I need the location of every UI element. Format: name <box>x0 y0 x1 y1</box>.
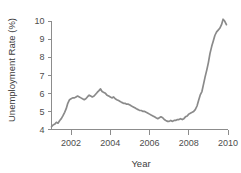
x-axis-title: Year <box>131 158 150 169</box>
y-tick-label: 9 <box>39 34 44 44</box>
y-axis-title: Unemployment Rate (%) <box>6 18 17 122</box>
chart-canvas: 45678910 20022004200620082010 Unemployme… <box>0 0 241 173</box>
series-line-unemployment-rate <box>52 19 227 127</box>
y-axis-ticks: 45678910 <box>34 16 51 134</box>
unemployment-rate-chart: 45678910 20022004200620082010 Unemployme… <box>0 0 241 173</box>
series-group <box>52 19 227 127</box>
x-tick-label: 2010 <box>218 138 238 148</box>
y-tick-label: 10 <box>34 16 44 26</box>
y-tick-label: 5 <box>39 107 44 117</box>
y-tick-label: 7 <box>39 71 44 81</box>
y-tick-label: 4 <box>39 125 44 135</box>
x-axis-ticks: 20022004200620082010 <box>61 130 238 148</box>
x-tick-label: 2002 <box>61 138 81 148</box>
y-tick-label: 6 <box>39 89 44 99</box>
x-tick-label: 2008 <box>179 138 199 148</box>
x-tick-label: 2006 <box>140 138 160 148</box>
x-tick-label: 2004 <box>100 138 120 148</box>
y-tick-label: 8 <box>39 52 44 62</box>
